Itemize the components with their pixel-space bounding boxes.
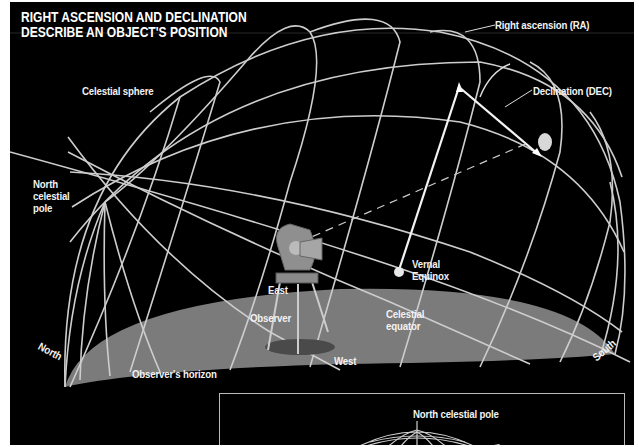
label-observers-horizon: Observer's horizon [132,368,217,380]
label-declination: Declination (DEC) [533,85,612,97]
title-line-2: DESCRIBE AN OBJECT'S POSITION [21,25,247,40]
title-line-1: RIGHT ASCENSION AND DECLINATION [21,10,247,25]
ce-line-1: Celestial [386,308,424,320]
label-celestial-equator: Celestial equator [386,308,424,332]
ncp-line-2: celestial [33,190,70,202]
ce-line-2: equator [386,320,424,332]
ra-line [399,87,459,270]
label-west: West [334,355,356,367]
object-icon [538,133,552,151]
label-north-celestial-pole: North celestial pole [33,178,70,214]
label-right-ascension: Right ascension (RA) [495,19,589,31]
diagram-panel: RIGHT ASCENSION AND DECLINATION DESCRIBE… [10,2,634,445]
vernal-equinox-point [394,267,404,277]
inset-box: North celestial pole [219,393,625,445]
celestial-sphere-diagram [10,2,634,445]
ve-line-2: Equinox [412,270,449,282]
inset-globe-icon [220,394,624,445]
label-celestial-sphere: Celestial sphere [82,85,153,97]
ncp-line-1: North [33,178,70,190]
ra-arc [480,64,510,97]
label-east: East [268,284,288,296]
sightline [300,142,530,242]
diagram-title: RIGHT ASCENSION AND DECLINATION DESCRIBE… [21,10,247,40]
dec-leader [505,90,532,107]
ra-leader [465,25,495,32]
ncp-line-3: pole [33,202,70,214]
label-vernal-equinox: Vernal Equinox [412,258,449,282]
ve-line-1: Vernal [412,258,449,270]
label-observer: Observer [250,312,291,324]
